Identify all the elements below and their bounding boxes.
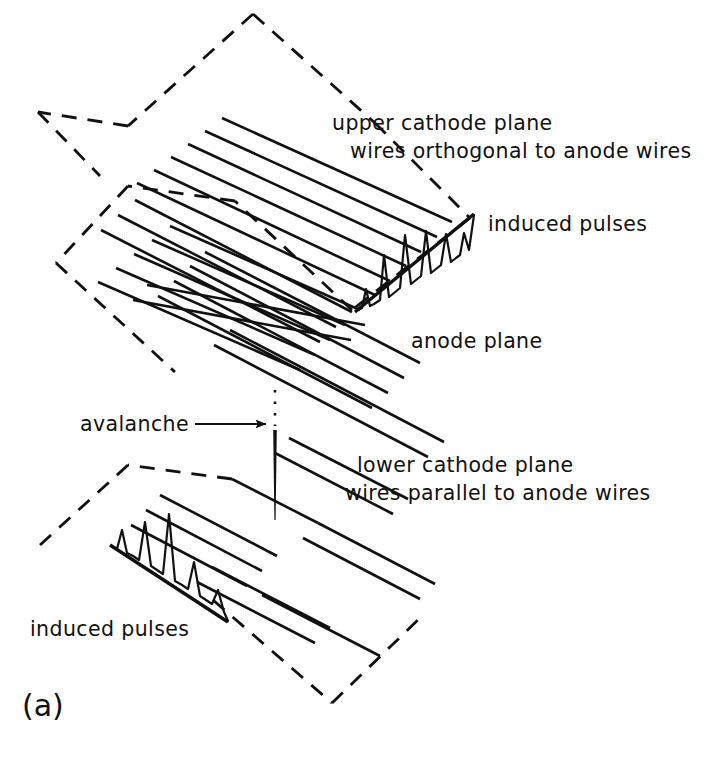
anode-plane-edge-left-lower (56, 186, 128, 263)
figure-container: upper cathode plane wires orthogonal to … (0, 0, 723, 768)
upper-plane-edge-top-right (253, 14, 375, 123)
avalanche-annotation: avalanche (80, 390, 277, 520)
anode-plane-edge-front-left (56, 263, 175, 372)
lower-cathode-plane: lower cathode plane wires parallel to an… (30, 438, 651, 703)
anode-plane-edge-left-upper (128, 186, 235, 201)
avalanche-label: avalanche (80, 412, 189, 436)
wire (318, 523, 435, 584)
wire (101, 230, 320, 342)
lower-plane-edge-left-upper (128, 465, 232, 479)
upper-plane-edge-left-upper (38, 112, 128, 126)
lower-plane-edge-front-right (332, 618, 420, 703)
anode-plane-label: anode plane (411, 329, 543, 353)
upper-cathode-label-line2: wires orthogonal to anode wires (350, 139, 692, 163)
lower-induced-pulses-label: induced pulses (30, 617, 189, 641)
mwpc-diagram: upper cathode plane wires orthogonal to … (0, 0, 723, 768)
upper-induced-pulses-label: induced pulses (488, 212, 647, 236)
wire (214, 345, 428, 457)
wire (303, 538, 420, 599)
wire (154, 170, 390, 281)
panel-label: (a) (22, 688, 64, 723)
lower-plane-edge-front-left (213, 600, 332, 703)
lower-plane-edge-left-lower (40, 465, 128, 545)
upper-cathode-plane: upper cathode plane wires orthogonal to … (38, 14, 692, 370)
upper-plane-edge-right-front (375, 123, 470, 218)
wire (205, 252, 420, 363)
lower-cathode-label-line2: wires parallel to anode wires (345, 481, 651, 505)
pulse-baseline (110, 545, 228, 622)
upper-cathode-label-line1: upper cathode plane (332, 111, 553, 135)
upper-plane-edge-top-left (128, 14, 253, 126)
lower-cathode-label-line1: lower cathode plane (357, 453, 574, 477)
avalanche-drift-line (273, 430, 277, 520)
